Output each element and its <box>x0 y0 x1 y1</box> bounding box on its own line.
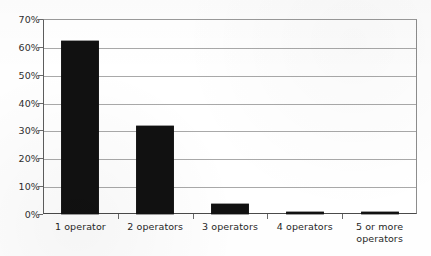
x-axis: 1 operator2 operators3 operators4 operat… <box>43 218 417 256</box>
x-tick-mark <box>193 214 194 219</box>
x-tick-label: 3 operators <box>193 221 268 233</box>
bar-slot <box>193 19 268 214</box>
bar-slot <box>342 19 417 214</box>
y-tick-label: 0% <box>4 209 40 220</box>
bar-slot <box>267 19 342 214</box>
x-tick-label: 2 operators <box>118 221 193 233</box>
bar-chart-figure: 0%10%20%30%40%50%60%70% 1 operator2 oper… <box>0 0 431 256</box>
bar <box>361 212 398 214</box>
y-tick-label: 50% <box>4 69 40 80</box>
x-tick-label: 5 or moreoperators <box>342 221 417 245</box>
x-tick-mark <box>342 214 343 219</box>
x-tick-label: 4 operators <box>267 221 342 233</box>
y-tick-label: 10% <box>4 181 40 192</box>
bar-slot <box>43 19 118 214</box>
x-tick-mark <box>267 214 268 219</box>
bar-slot <box>118 19 193 214</box>
y-tick-label: 40% <box>4 97 40 108</box>
y-tick-mark <box>38 214 43 215</box>
x-tick-mark <box>118 214 119 219</box>
y-tick-label: 60% <box>4 41 40 52</box>
bar <box>137 126 174 214</box>
x-tick-label: 1 operator <box>43 221 118 233</box>
bar <box>211 204 248 214</box>
y-tick-label: 70% <box>4 14 40 25</box>
y-tick-label: 20% <box>4 153 40 164</box>
bar <box>62 41 99 214</box>
bar-series <box>43 19 417 214</box>
y-tick-label: 30% <box>4 125 40 136</box>
bar <box>286 212 323 214</box>
